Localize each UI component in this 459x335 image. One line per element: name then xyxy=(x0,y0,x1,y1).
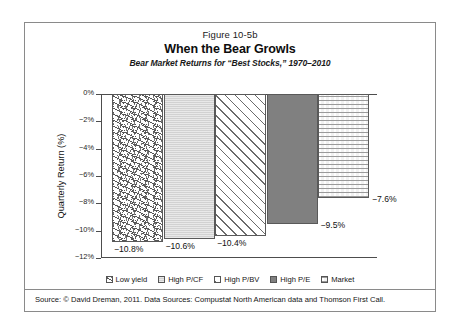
legend-label: Market xyxy=(331,275,354,284)
bar-value-label: −10.6% xyxy=(166,241,195,251)
figure-frame: Figure 10-5b When the Bear Growls Bear M… xyxy=(24,22,436,312)
legend-swatch-icon xyxy=(214,276,221,283)
legend-item-high-p-bv[interactable]: High P/BV xyxy=(214,275,259,284)
bar-high-p-bv[interactable] xyxy=(215,94,266,236)
y-axis-tick-mark xyxy=(96,231,101,232)
y-axis-tick-mark xyxy=(96,121,101,122)
bar-high-p-cf[interactable] xyxy=(164,94,215,239)
y-axis-tick-label: −6% xyxy=(79,170,94,179)
bar-market[interactable] xyxy=(318,94,369,198)
y-axis-tick-label: −10% xyxy=(75,225,94,234)
figure-number: Figure 10-5b xyxy=(25,28,435,41)
y-axis-tick-label: −2% xyxy=(79,115,94,124)
y-axis-tick-label: −8% xyxy=(79,197,94,206)
legend-item-low-yield[interactable]: Low yield xyxy=(106,275,148,284)
legend-swatch-icon xyxy=(158,276,165,283)
source-divider xyxy=(25,289,435,290)
legend-label: High P/BV xyxy=(224,275,259,284)
bar-value-label: −10.4% xyxy=(217,238,246,248)
legend-label: Low yield xyxy=(116,275,148,284)
y-axis-tick-mark xyxy=(96,94,101,95)
bar-low-yield[interactable] xyxy=(112,94,163,242)
y-axis-tick-label: −12% xyxy=(75,252,94,261)
legend-label: High P/E xyxy=(280,275,310,284)
source-note: Source: © David Dreman, 2011. Data Sourc… xyxy=(35,295,385,304)
bar-value-label: −10.8% xyxy=(114,244,143,254)
x-axis-line xyxy=(101,257,377,258)
legend-item-market[interactable]: Market xyxy=(321,275,354,284)
y-axis-line xyxy=(101,94,102,258)
legend-swatch-icon xyxy=(270,276,277,283)
chart-subtitle: Bear Market Returns for “Best Stocks,” 1… xyxy=(25,57,435,70)
legend-swatch-icon xyxy=(106,276,113,283)
y-axis-tick-mark xyxy=(96,149,101,150)
y-axis-tick-label: −4% xyxy=(79,143,94,152)
legend-label: High P/CF xyxy=(168,275,203,284)
legend-swatch-icon xyxy=(321,276,328,283)
bar-high-p-e[interactable] xyxy=(267,94,318,224)
legend-item-high-p-e[interactable]: High P/E xyxy=(270,275,310,284)
bar-value-label: −9.5% xyxy=(321,220,346,230)
legend-item-high-p-cf[interactable]: High P/CF xyxy=(158,275,203,284)
chart-title: When the Bear Growls xyxy=(25,41,435,57)
y-axis-tick-mark xyxy=(96,203,101,204)
y-axis-tick-mark xyxy=(96,176,101,177)
y-axis-tick-mark xyxy=(96,258,101,259)
y-axis-title: Quarterly Return (%) xyxy=(55,94,68,258)
chart-legend: Low yieldHigh P/CFHigh P/BVHigh P/EMarke… xyxy=(25,275,435,284)
y-axis-tick-label: 0% xyxy=(83,88,94,97)
title-block: Figure 10-5b When the Bear Growls Bear M… xyxy=(25,28,435,70)
bar-value-label: −7.6% xyxy=(372,194,397,204)
plot-area: 0%−2%−4%−6%−8%−10%−12% −10.8%−10.6%−10.4… xyxy=(101,94,377,258)
